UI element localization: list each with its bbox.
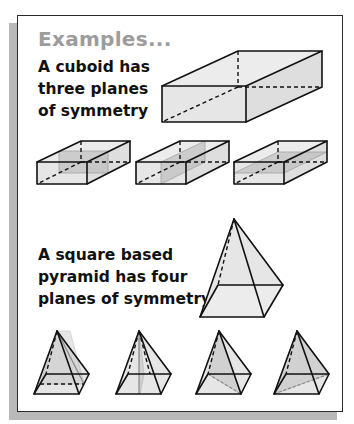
cuboid-caption: A cuboid has three planes of symmetry [38,56,150,122]
pyramid-caption-line-3: planes of symmetry [38,288,211,310]
examples-title: Examples... [38,27,172,51]
pyramid-caption: A square based pyramid has four planes o… [38,244,211,310]
pyramid-caption-line-2: pyramid has four [38,266,211,288]
cuboid-caption-line-1: A cuboid has [38,56,150,78]
cuboid-caption-line-3: of symmetry [38,100,150,122]
cuboid-caption-line-2: three planes [38,78,150,100]
pyramid-caption-line-1: A square based [38,244,211,266]
